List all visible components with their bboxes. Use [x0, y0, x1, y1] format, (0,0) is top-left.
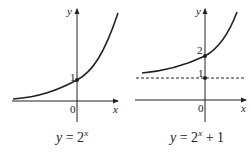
- point-0-1: [75, 78, 79, 82]
- origin-label: 0: [198, 102, 204, 114]
- figure: y x 0 1 y = 2x y x 0 2 1 y = 2x + 1: [0, 0, 251, 152]
- plot-left: y x 0 1 y = 2x: [12, 5, 118, 145]
- tick-label-1: 1: [70, 71, 76, 83]
- y-axis-label: y: [195, 5, 201, 17]
- x-axis-label: x: [112, 103, 118, 115]
- caption-right: y = 2x + 1: [168, 128, 224, 145]
- y-axis-label: y: [66, 5, 72, 17]
- point-0-1: [203, 76, 207, 80]
- curve: [13, 13, 118, 99]
- origin-label: 0: [70, 103, 76, 115]
- plot-right: y x 0 2 1 y = 2x + 1: [135, 5, 246, 145]
- tick-label-1: 1: [198, 67, 204, 79]
- caption-left: y = 2x: [54, 128, 88, 145]
- tick-label-2: 2: [197, 44, 203, 56]
- x-axis-label: x: [240, 102, 246, 114]
- curve: [142, 12, 237, 73]
- point-0-2: [203, 54, 207, 58]
